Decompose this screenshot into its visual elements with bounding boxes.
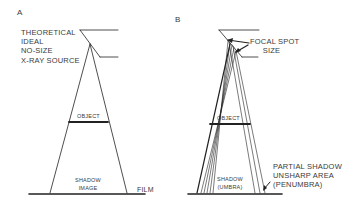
source-label-line-1: THEORETICAL: [21, 29, 76, 37]
source-label-line-4: X-RAY SOURCE: [21, 57, 80, 65]
penumbra-label-line-3: (PENUMBRA): [273, 181, 323, 189]
penumbra-label-line-2: UNSHARP AREA: [273, 172, 334, 180]
source-label-line-3: NO-SIZE: [21, 47, 53, 55]
focal-label-line-1: FOCAL SPOT: [250, 38, 299, 46]
penumbra-label-line-1: PARTIAL SHADOW: [273, 163, 342, 171]
focal-label-line-2: SIZE: [250, 47, 293, 55]
panel-b-shadow-line-1: SHADOW: [212, 177, 248, 183]
panel-a-shadow-line-2: IMAGE: [72, 186, 104, 192]
penumbra-arrow: [263, 182, 270, 191]
panel-a-shadow-line-1: SHADOW: [72, 178, 104, 184]
panel-b-letter: B: [175, 16, 181, 24]
panel-b-shadow-line-2: (UMBRA): [212, 185, 248, 191]
panel-b-object-label: OBJECT: [217, 116, 240, 122]
film-label: FILM: [137, 186, 154, 193]
source-label-line-2: IDEAL: [21, 38, 44, 46]
panel-a-letter: A: [17, 9, 23, 17]
panel-a-anode: [80, 30, 118, 57]
panel-a-object-label: OBJECT: [77, 114, 100, 120]
